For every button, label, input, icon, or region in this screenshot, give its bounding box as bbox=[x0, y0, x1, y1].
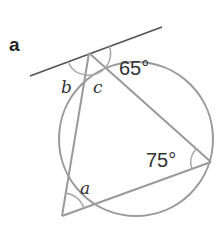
angle-label-65: 65° bbox=[119, 57, 149, 79]
angle-arc-b bbox=[68, 62, 86, 75]
angle-label-a: a bbox=[80, 178, 90, 198]
angle-label-75: 75° bbox=[146, 149, 176, 171]
chord-top-to-right bbox=[89, 53, 211, 162]
part-label: a bbox=[9, 34, 20, 55]
angle-label-b: b bbox=[61, 77, 72, 97]
circle-theorem-diagram: a b c 65° 75° a bbox=[0, 0, 224, 246]
angle-label-c: c bbox=[93, 77, 103, 97]
angle-arc-75 bbox=[191, 149, 196, 169]
